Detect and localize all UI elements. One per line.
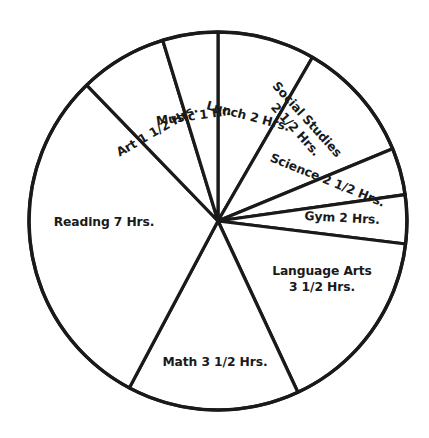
slice-label-line: Math 3 1/2 Hrs. (162, 355, 267, 369)
slice-label-line: Language Arts (272, 264, 372, 278)
pie-chart-container: Lunch 2 Hrs.Social Studies2 1/2 Hrs.Scie… (0, 0, 429, 438)
pie-chart: Lunch 2 Hrs.Social Studies2 1/2 Hrs.Scie… (0, 0, 429, 438)
slice-label-reading: Reading 7 Hrs. (54, 215, 155, 229)
slice-label-math: Math 3 1/2 Hrs. (162, 355, 267, 369)
slice-label-line: 3 1/2 Hrs. (289, 280, 355, 294)
slice-label-line: Reading 7 Hrs. (54, 215, 155, 229)
